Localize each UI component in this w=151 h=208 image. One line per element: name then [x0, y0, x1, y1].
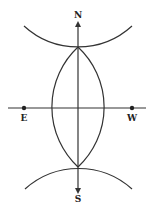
compass-construction-diagram: N S E W [0, 0, 151, 208]
west-point [130, 106, 134, 110]
east-label: E [21, 113, 28, 123]
south-label: S [75, 194, 82, 204]
lens-left-arc [52, 47, 78, 167]
east-point [22, 106, 26, 110]
north-label: N [74, 10, 82, 20]
lens-right-arc [78, 47, 104, 167]
west-label: W [126, 113, 138, 123]
